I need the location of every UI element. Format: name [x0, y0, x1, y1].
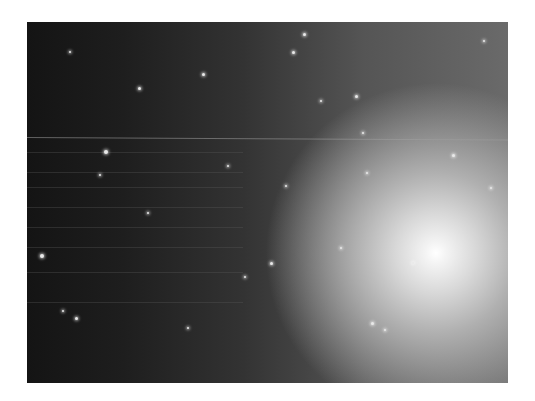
star [99, 174, 101, 176]
star [303, 33, 306, 36]
star [62, 310, 64, 312]
star [362, 132, 364, 134]
star [384, 329, 386, 331]
star [270, 262, 273, 265]
star [412, 262, 414, 264]
scan-line [27, 272, 243, 273]
scan-line [27, 207, 243, 208]
scan-line [27, 152, 243, 153]
star [187, 327, 189, 329]
star [227, 165, 229, 167]
star [452, 154, 455, 157]
star [69, 51, 71, 53]
star [490, 187, 492, 189]
scan-line [27, 227, 243, 228]
star [147, 212, 149, 214]
star [202, 73, 205, 76]
star [292, 51, 295, 54]
scan-line [27, 247, 243, 248]
star [104, 150, 108, 154]
scan-line [27, 187, 243, 188]
scan-line [27, 172, 243, 173]
star [340, 247, 342, 249]
star [138, 87, 141, 90]
astronomical-photo [27, 22, 508, 383]
star [75, 317, 78, 320]
star [320, 100, 322, 102]
star [285, 185, 287, 187]
star [244, 276, 246, 278]
satellite-streak [27, 137, 508, 141]
star [355, 95, 358, 98]
star [483, 40, 485, 42]
star [366, 172, 368, 174]
star [40, 254, 44, 258]
star [371, 322, 374, 325]
scan-line [27, 302, 243, 303]
